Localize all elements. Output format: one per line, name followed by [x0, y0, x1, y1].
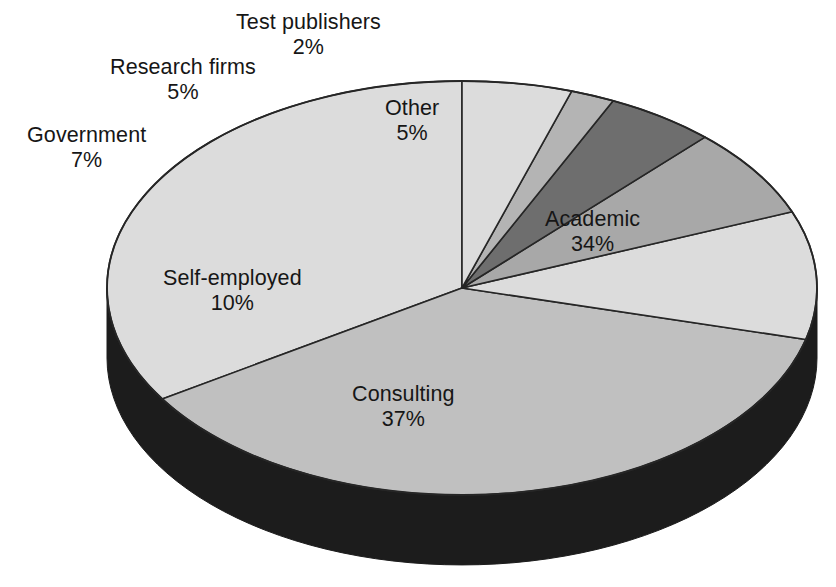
- slice-label-name: Test publishers: [236, 10, 381, 35]
- slice-label-value: 5%: [385, 121, 439, 146]
- slice-label-research-firms: Research firms5%: [110, 55, 256, 106]
- slice-label-name: Government: [27, 123, 146, 148]
- slice-label-academic: Academic34%: [545, 207, 640, 258]
- slice-label-value: 10%: [163, 291, 302, 316]
- slice-label-name: Academic: [545, 207, 640, 232]
- slice-label-value: 37%: [352, 407, 455, 432]
- slice-label-value: 7%: [27, 148, 146, 173]
- slice-label-value: 2%: [236, 35, 381, 60]
- slice-label-value: 34%: [545, 232, 640, 257]
- slice-label-consulting: Consulting37%: [352, 382, 455, 433]
- slice-label-name: Self-employed: [163, 266, 302, 291]
- slice-label-other: Other5%: [385, 96, 439, 147]
- slice-label-self-employed: Self-employed10%: [163, 266, 302, 317]
- pie-chart: Academic34%Consulting37%Self-employed10%…: [0, 0, 836, 587]
- slice-label-value: 5%: [110, 80, 256, 105]
- slice-label-test-publishers: Test publishers2%: [236, 10, 381, 61]
- slice-label-name: Consulting: [352, 382, 455, 407]
- slice-label-name: Research firms: [110, 55, 256, 80]
- slice-label-government: Government7%: [27, 123, 146, 174]
- slice-label-name: Other: [385, 96, 439, 121]
